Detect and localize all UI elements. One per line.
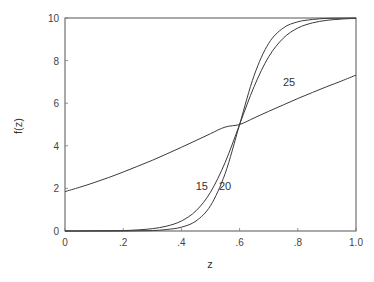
curve-label-15: 15 bbox=[196, 180, 208, 192]
plot-frame bbox=[65, 18, 356, 231]
curve-label-25: 25 bbox=[283, 76, 295, 88]
x-tick-label: .4 bbox=[177, 237, 186, 248]
curve-25 bbox=[65, 75, 356, 192]
y-tick-label: 2 bbox=[53, 183, 59, 194]
y-tick-label: 4 bbox=[53, 141, 59, 152]
y-tick-label: 10 bbox=[48, 13, 60, 24]
x-tick-label: .6 bbox=[235, 237, 244, 248]
y-axis-label: f(z) bbox=[12, 118, 24, 134]
x-tick-label: 0 bbox=[62, 237, 68, 248]
curve-label-20: 20 bbox=[219, 180, 231, 192]
y-tick-label: 6 bbox=[53, 98, 59, 109]
x-tick-label: 1.0 bbox=[349, 237, 363, 248]
x-tick-label: .8 bbox=[294, 237, 303, 248]
curve-20 bbox=[65, 18, 356, 231]
curves bbox=[65, 18, 356, 231]
curve-15 bbox=[65, 18, 356, 231]
y-tick-label: 8 bbox=[53, 56, 59, 67]
y-tick-label: 0 bbox=[53, 226, 59, 237]
x-tick-label: .2 bbox=[119, 237, 128, 248]
x-axis-label: z bbox=[207, 258, 213, 270]
chart: 0246810 0.2.4.6.81.0 152025 z f(z) bbox=[0, 0, 374, 282]
